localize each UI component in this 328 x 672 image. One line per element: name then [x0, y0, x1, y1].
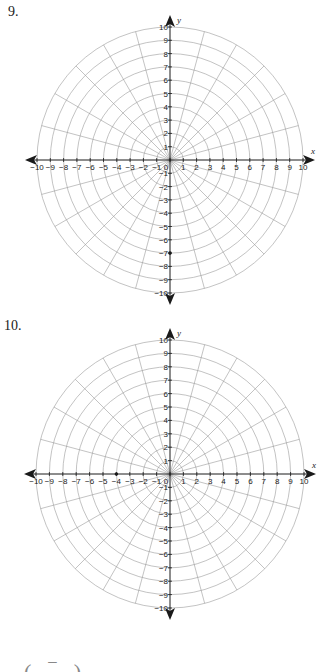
polar-grid-problem-10: xy−10−9−8−7−6−5−4−3−2−101234567891010987… [0, 314, 328, 634]
x-tick-label: −7 [72, 477, 82, 486]
y-tick-label: −1 [159, 483, 169, 492]
y-tick-label: −1 [159, 169, 169, 178]
x-axis-label: x [310, 146, 315, 156]
y-tick-label: −5 [159, 537, 169, 546]
x-tick-label: 1 [181, 163, 186, 172]
y-tick-label: −4 [159, 524, 169, 533]
y-tick-label: −8 [159, 262, 169, 271]
y-tick-label: −6 [159, 550, 169, 559]
y-tick-label: 10 [159, 336, 168, 345]
y-axis-label: y [176, 328, 181, 338]
x-tick-label: −6 [86, 163, 96, 172]
x-tick-label: 2 [195, 477, 200, 486]
y-tick-label: −4 [159, 209, 169, 218]
x-tick-label: 8 [275, 477, 280, 486]
y-tick-label: −10 [154, 289, 168, 298]
x-tick-label: −9 [46, 163, 56, 172]
x-tick-label: 7 [262, 477, 267, 486]
partial-expression-text: ( ‾ ) [24, 658, 87, 672]
y-tick-label: 1 [164, 143, 169, 152]
y-tick-label: −2 [159, 497, 169, 506]
x-tick-label: −2 [139, 163, 149, 172]
y-tick-label: 7 [164, 376, 169, 385]
y-tick-label: −8 [159, 577, 169, 586]
y-tick-label: 4 [164, 416, 169, 425]
y-tick-label: 9 [164, 36, 169, 45]
y-tick-label: −3 [159, 510, 169, 519]
y-tick-label: −7 [159, 564, 169, 573]
y-tick-label: 4 [164, 103, 169, 112]
x-tick-label: −5 [99, 163, 109, 172]
x-tick-label: −9 [45, 477, 55, 486]
x-tick-label: −3 [126, 163, 136, 172]
x-tick-label: −4 [112, 163, 122, 172]
x-tick-label: 6 [248, 163, 253, 172]
y-tick-label: 5 [164, 90, 169, 99]
x-tick-label: 10 [299, 163, 308, 172]
y-tick-label: 8 [164, 363, 169, 372]
x-tick-label: −3 [125, 477, 135, 486]
y-tick-label: −3 [159, 196, 169, 205]
x-tick-label: −8 [58, 477, 68, 486]
x-tick-label: −8 [59, 163, 69, 172]
y-tick-label: 8 [164, 50, 169, 59]
x-axis-label: x [311, 460, 316, 470]
x-tick-label: 1 [181, 477, 186, 486]
x-tick-label: −7 [72, 163, 82, 172]
x-tick-label: 5 [234, 163, 239, 172]
y-tick-label: 2 [164, 129, 169, 138]
x-tick-label: −5 [98, 477, 108, 486]
x-tick-label: 7 [261, 163, 266, 172]
x-tick-label: 4 [221, 477, 226, 486]
x-tick-label: −6 [85, 477, 95, 486]
x-tick-label: −4 [112, 477, 122, 486]
y-tick-label: 3 [164, 430, 169, 439]
y-tick-label: −9 [159, 276, 169, 285]
y-tick-label: −5 [159, 223, 169, 232]
x-tick-label: 3 [208, 163, 213, 172]
y-tick-label: 10 [159, 23, 168, 32]
x-tick-label: −10 [29, 477, 43, 486]
y-tick-label: 5 [164, 403, 169, 412]
x-tick-label: 9 [288, 477, 293, 486]
y-tick-label: 6 [164, 390, 169, 399]
y-tick-label: 2 [164, 443, 169, 452]
y-tick-label: −9 [159, 591, 169, 600]
y-tick-label: −6 [159, 236, 169, 245]
y-tick-label: 3 [164, 116, 169, 125]
x-tick-label: 3 [208, 477, 213, 486]
x-tick-label: 4 [221, 163, 226, 172]
polar-grid-problem-9: xy−10−9−8−7−6−5−4−3−2−101234567891010987… [0, 0, 328, 320]
y-tick-label: 7 [164, 63, 169, 72]
x-tick-label: 6 [248, 477, 253, 486]
plotted-point [115, 472, 119, 476]
x-tick-label: 5 [235, 477, 240, 486]
x-tick-label: 8 [274, 163, 279, 172]
x-tick-label: −2 [139, 477, 149, 486]
x-tick-label: 9 [287, 163, 292, 172]
y-tick-label: −2 [159, 183, 169, 192]
y-tick-label: 6 [164, 76, 169, 85]
y-tick-label: −10 [154, 604, 168, 613]
x-tick-label: −10 [30, 163, 44, 172]
x-tick-label: 10 [300, 477, 309, 486]
x-tick-label: 2 [194, 163, 199, 172]
plotted-point [168, 251, 172, 255]
y-tick-label: 1 [164, 457, 169, 466]
y-tick-label: −7 [159, 249, 169, 258]
y-axis-label: y [176, 15, 181, 25]
y-tick-label: 9 [164, 349, 169, 358]
